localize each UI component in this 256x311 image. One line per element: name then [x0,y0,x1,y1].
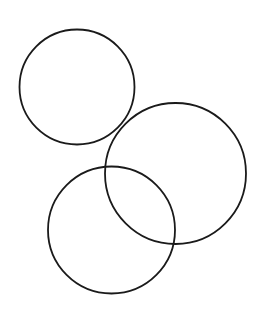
circle-bottom [48,167,175,294]
circle-top-left [20,30,135,145]
circles-diagram [0,0,256,311]
